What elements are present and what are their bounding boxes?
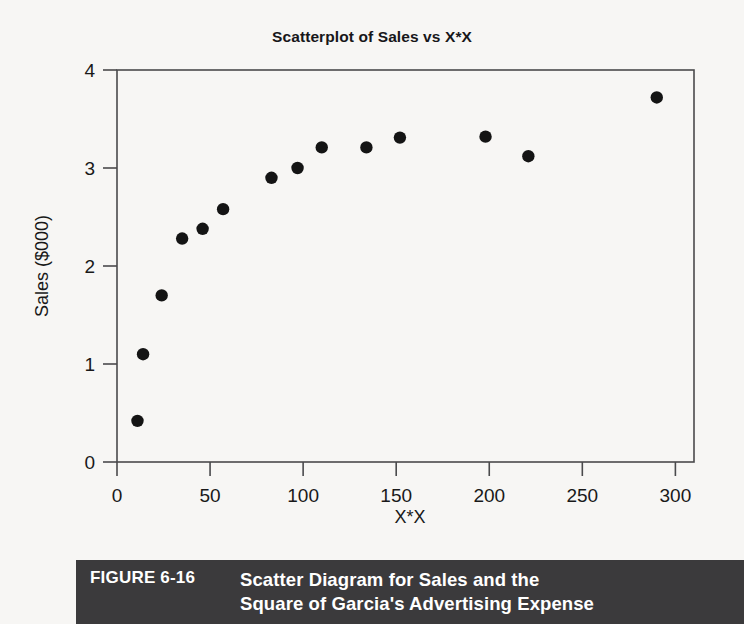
data-point — [131, 415, 143, 427]
data-point — [217, 203, 229, 215]
x-tick-label: 300 — [660, 485, 692, 506]
y-tick-label: 1 — [84, 354, 95, 375]
x-tick-label: 150 — [380, 485, 412, 506]
data-point — [316, 141, 328, 153]
figure-number-label: FIGURE 6-16 — [76, 568, 240, 588]
data-point — [176, 232, 188, 244]
data-point — [265, 172, 277, 184]
data-point — [360, 141, 372, 153]
x-tick-label: 250 — [566, 485, 598, 506]
data-point — [394, 131, 406, 143]
x-axis-title: X*X — [394, 507, 425, 527]
data-point — [522, 150, 534, 162]
x-tick-label: 200 — [473, 485, 505, 506]
x-tick-label: 0 — [112, 485, 123, 506]
y-tick-label: 2 — [84, 256, 95, 277]
y-tick-label: 0 — [84, 452, 95, 473]
figure-caption-bar: FIGURE 6-16 Scatter Diagram for Sales an… — [76, 560, 744, 624]
y-axis-title: Sales ($000) — [32, 215, 52, 317]
y-tick-label: 4 — [84, 60, 95, 81]
data-point — [291, 162, 303, 174]
figure-caption-text: Scatter Diagram for Sales and the Square… — [240, 568, 594, 616]
y-axis-ticks: 01234 — [84, 60, 117, 473]
plot-frame — [117, 70, 694, 462]
y-tick-label: 3 — [84, 158, 95, 179]
data-point — [155, 289, 167, 301]
x-axis-ticks: 050100150200250300 — [112, 462, 692, 506]
data-points — [131, 91, 663, 427]
x-tick-label: 100 — [287, 485, 319, 506]
data-point — [196, 223, 208, 235]
x-tick-label: 50 — [199, 485, 220, 506]
data-point — [479, 130, 491, 142]
data-point — [137, 348, 149, 360]
scatter-plot: 01234 050100150200250300 Sales ($000) X*… — [0, 0, 744, 560]
figure-container: Scatterplot of Sales vs X*X 01234 050100… — [0, 0, 744, 624]
data-point — [651, 91, 663, 103]
